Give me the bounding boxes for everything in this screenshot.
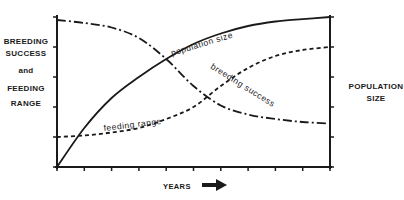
axes <box>53 15 334 171</box>
chart-plot: population sizebreeding successfeeding r… <box>0 0 404 200</box>
inline-labels: population sizebreeding successfeeding r… <box>103 30 277 133</box>
y-axis-left-label-3: and <box>0 66 52 76</box>
arrow-right-icon <box>202 179 227 191</box>
feeding-range-label: feeding range <box>103 116 162 133</box>
data-lines <box>57 17 330 167</box>
y-axis-left-label-5: RANGE <box>0 99 52 109</box>
y-axis-left-label-2: SUCCESS <box>0 49 52 59</box>
population-size-line <box>57 17 330 167</box>
y-axis-left-label-1: BREEDING <box>0 37 52 47</box>
y-axis-right-label-2: SIZE <box>348 94 404 104</box>
x-axis-label: YEARS <box>163 182 191 191</box>
population-size-label: population size <box>170 30 234 58</box>
y-axis-left-label-4: FEEDING <box>0 84 52 94</box>
breeding-success-label: breeding success <box>209 61 277 109</box>
feeding-range-line <box>57 47 330 137</box>
y-axis-right-label-1: POPULATION <box>348 82 404 92</box>
